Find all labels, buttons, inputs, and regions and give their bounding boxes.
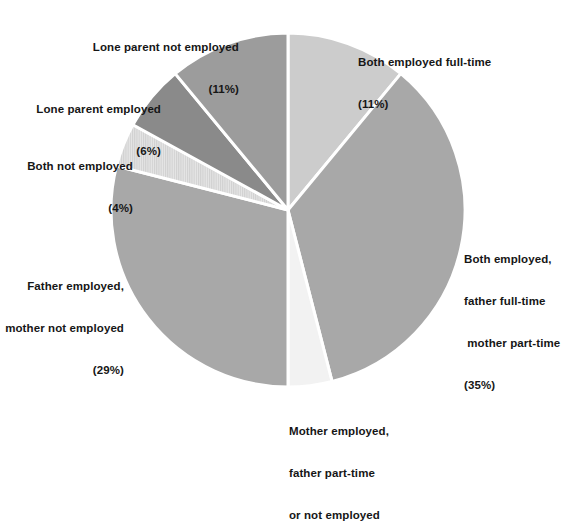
slice-label-line: or not employed — [289, 508, 389, 522]
slice-label-both-employed-father-full-mother-part: Both employed, father full-time mother p… — [464, 224, 560, 420]
slice-label-both-employed-full-time: Both employed full-time (11%) — [358, 27, 491, 139]
slice-label-mother-employed-father-part-time: Mother employed, father part-time or not… — [289, 396, 389, 525]
slice-label-value: (6%) — [0, 144, 161, 158]
slice-label-line: father full-time — [464, 294, 560, 308]
slice-label-line: mother not employed — [0, 321, 124, 335]
slice-label-value: (11%) — [358, 97, 491, 111]
slice-label-line: Father employed, — [0, 279, 124, 293]
slice-label-line: Both employed, — [464, 252, 560, 266]
slice-label-line: Both employed full-time — [358, 55, 491, 69]
slice-label-value: (35%) — [464, 378, 560, 392]
slice-label-line: father part-time — [289, 466, 389, 480]
slice-label-lone-parent-not-employed: Lone parent not employed (11%) — [0, 12, 239, 124]
slice-label-value: (11%) — [0, 82, 239, 96]
slice-label-line: mother part-time — [464, 336, 560, 350]
slice-label-line: Lone parent not employed — [0, 40, 239, 54]
slice-label-father-employed-mother-not-employed: Father employed, mother not employed (29… — [0, 251, 124, 405]
slice-label-line: Mother employed, — [289, 424, 389, 438]
slice-label-value: (29%) — [0, 363, 124, 377]
slice-label-value: (4%) — [0, 201, 133, 215]
